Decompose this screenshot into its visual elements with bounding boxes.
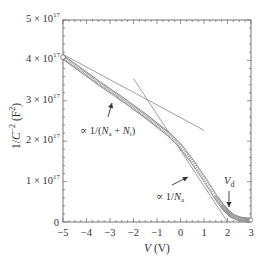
annotation-na: ∝ 1/Na xyxy=(156,191,185,204)
x-tick-label: 3 xyxy=(248,227,253,238)
x-tick-label: 1 xyxy=(201,227,206,238)
x-tick-label: 0 xyxy=(178,227,183,238)
y-tick-label: 0 xyxy=(54,217,59,228)
y-tick-label: 1 × 1017 xyxy=(26,173,60,186)
x-tick-label: −2 xyxy=(128,227,139,238)
data-point xyxy=(249,218,253,222)
fit-line-na-nt xyxy=(63,54,204,130)
x-tick-label: −1 xyxy=(151,227,162,238)
y-tick-label: 2 × 1017 xyxy=(26,132,60,145)
annotation-vd: Vd xyxy=(224,175,234,189)
annotation-na-nt: ∝ 1/(Na + Nt) xyxy=(80,125,136,138)
x-tick-label: 2 xyxy=(225,227,230,238)
y-tick-label: 5 × 1017 xyxy=(26,11,60,24)
y-tick-label: 4 × 1017 xyxy=(26,51,60,64)
y-axis-title: 1/C−2 (F2) xyxy=(8,103,23,149)
chart: −5−4−3−2−1012301 × 10172 × 10173 × 10174… xyxy=(0,0,265,263)
x-tick-label: −3 xyxy=(104,227,115,238)
y-tick-label: 3 × 1017 xyxy=(26,92,60,105)
x-tick-label: −4 xyxy=(81,227,93,238)
x-tick-label: −5 xyxy=(57,227,68,238)
x-axis-title: V (V) xyxy=(144,242,170,255)
